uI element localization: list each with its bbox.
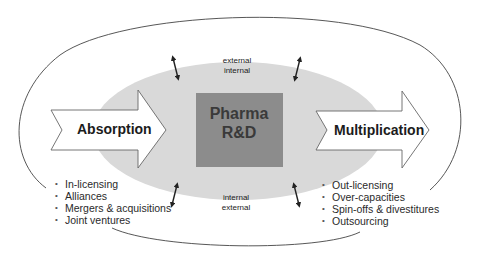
list-item: Joint ventures: [55, 214, 171, 226]
multiplication-label: Multiplication: [334, 122, 424, 138]
list-item: Outsourcing: [322, 215, 439, 227]
boundary-bottom-external: external: [206, 203, 266, 213]
list-item: In-licensing: [55, 178, 171, 190]
boundary-label-bottom: internal external: [206, 193, 266, 213]
center-label-line1: Pharma: [195, 104, 283, 123]
absorption-list: In-licensing Alliances Mergers & acquisi…: [55, 178, 171, 226]
boundary-top-external: external: [207, 56, 267, 66]
pharma-rd-label: Pharma R&D: [195, 104, 283, 142]
boundary-top-internal: internal: [207, 66, 267, 76]
list-item: Over-capacities: [322, 191, 439, 203]
list-item: Out-licensing: [322, 179, 439, 191]
multiplication-list: Out-licensing Over-capacities Spin-offs …: [322, 179, 439, 227]
center-label-line2: R&D: [195, 123, 283, 142]
list-item: Mergers & acquisitions: [55, 202, 171, 214]
list-item: Spin-offs & divestitures: [322, 203, 439, 215]
boundary-bottom-internal: internal: [206, 193, 266, 203]
absorption-label: Absorption: [77, 121, 152, 137]
boundary-label-top: external internal: [207, 56, 267, 76]
list-item: Alliances: [55, 190, 171, 202]
